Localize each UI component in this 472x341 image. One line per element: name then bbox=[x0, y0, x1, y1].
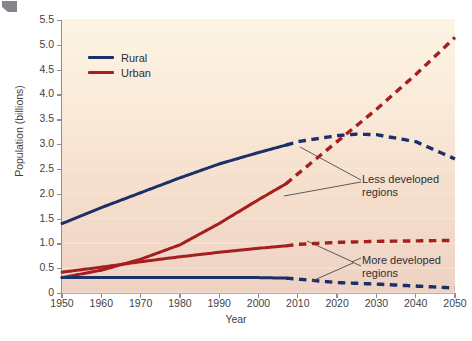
x-tick-label: 2000 bbox=[247, 297, 270, 309]
series-line-projected bbox=[286, 278, 455, 288]
series-line-projected bbox=[286, 134, 455, 159]
annotation-more-developed-regions: More developed regions bbox=[362, 254, 441, 279]
series-line-observed bbox=[62, 184, 286, 278]
y-tick-mark bbox=[57, 119, 61, 120]
y-tick-label: 3.5 bbox=[24, 112, 54, 124]
y-tick-mark bbox=[57, 94, 61, 95]
x-tick-mark bbox=[415, 294, 416, 298]
y-tick-label: 0.5 bbox=[24, 261, 54, 273]
y-tick-label: 2.5 bbox=[24, 162, 54, 174]
y-tick-mark bbox=[57, 169, 61, 170]
y-tick-label: 2.0 bbox=[24, 187, 54, 199]
x-tick-mark bbox=[179, 294, 180, 298]
y-tick-mark bbox=[57, 219, 61, 220]
x-tick-mark bbox=[258, 294, 259, 298]
y-tick-label: 4.0 bbox=[24, 87, 54, 99]
y-tick-label: 5.0 bbox=[24, 38, 54, 50]
legend-item-rural: Rural bbox=[88, 50, 151, 65]
y-tick-label: 1.5 bbox=[24, 212, 54, 224]
y-tick-mark bbox=[57, 20, 61, 21]
legend: Rural Urban bbox=[88, 50, 151, 80]
y-tick-label: 5.5 bbox=[24, 13, 54, 25]
x-tick-label: 2020 bbox=[325, 297, 348, 309]
legend-swatch-rural bbox=[88, 56, 114, 59]
y-tick-mark bbox=[57, 45, 61, 46]
x-tick-mark bbox=[336, 294, 337, 298]
population-chart-figure: Population (billions) 00.51.01.52.02.53.… bbox=[0, 0, 472, 341]
x-tick-label: 2030 bbox=[365, 297, 388, 309]
legend-swatch-urban bbox=[88, 71, 114, 74]
x-tick-label: 1950 bbox=[50, 297, 73, 309]
x-tick-label: 1980 bbox=[168, 297, 191, 309]
x-tick-label: 2010 bbox=[286, 297, 309, 309]
legend-item-urban: Urban bbox=[88, 65, 151, 80]
series-line-observed bbox=[62, 145, 286, 223]
x-tick-mark bbox=[297, 294, 298, 298]
x-tick-label: 1970 bbox=[129, 297, 152, 309]
x-tick-mark bbox=[219, 294, 220, 298]
legend-label-rural: Rural bbox=[121, 52, 147, 64]
x-tick-mark bbox=[376, 294, 377, 298]
y-tick-mark bbox=[57, 268, 61, 269]
y-tick-label: 4.5 bbox=[24, 63, 54, 75]
y-tick-label: 3.0 bbox=[24, 137, 54, 149]
x-tick-label: 2040 bbox=[404, 297, 427, 309]
y-tick-mark bbox=[57, 194, 61, 195]
x-tick-mark bbox=[140, 294, 141, 298]
x-tick-label: 1990 bbox=[208, 297, 231, 309]
annotation-less-developed-regions: Less developed regions bbox=[362, 173, 439, 198]
y-axis-label: Population (billions) bbox=[13, 66, 25, 196]
x-tick-mark bbox=[101, 294, 102, 298]
series-line-projected bbox=[286, 37, 455, 183]
legend-label-urban: Urban bbox=[121, 67, 151, 79]
series-line-observed bbox=[62, 278, 286, 279]
x-tick-mark bbox=[454, 294, 455, 298]
corner-artifact-icon bbox=[2, 1, 17, 12]
x-axis-label: Year bbox=[0, 313, 472, 325]
y-tick-mark bbox=[57, 243, 61, 244]
x-tick-label: 2050 bbox=[443, 297, 466, 309]
y-tick-mark bbox=[57, 70, 61, 71]
x-tick-label: 1960 bbox=[90, 297, 113, 309]
y-tick-mark bbox=[57, 144, 61, 145]
y-tick-label: 1.0 bbox=[24, 236, 54, 248]
x-tick-mark bbox=[61, 294, 62, 298]
